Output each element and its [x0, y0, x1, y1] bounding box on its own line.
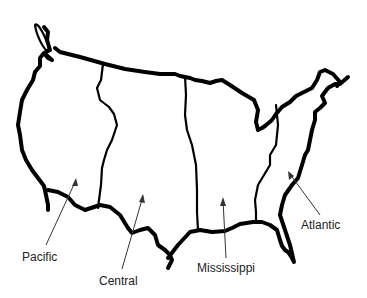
- arrow-pacific: [46, 178, 78, 245]
- border-central-mississippi: [185, 76, 198, 230]
- label-central: Central: [99, 274, 138, 288]
- label-mississippi: Mississippi: [197, 261, 255, 275]
- country-outline: [18, 27, 348, 268]
- label-pacific: Pacific: [22, 250, 57, 264]
- arrow-mississippi: [220, 197, 226, 258]
- label-atlantic: Atlantic: [301, 218, 340, 232]
- arrow-atlantic: [288, 171, 320, 215]
- border-pacific-central: [97, 64, 117, 208]
- us-map: Pacific Central Mississippi Atlantic: [0, 0, 367, 298]
